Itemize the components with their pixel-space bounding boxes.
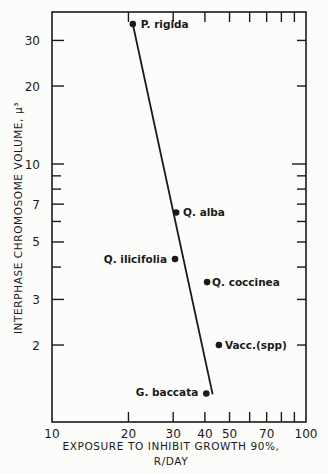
point-marker [173, 209, 180, 216]
point-marker [204, 279, 211, 286]
y-axis-title: INTERPHASE CHROMOSOME VOLUME, μ³ [12, 102, 24, 334]
point-label: Q. alba [183, 206, 225, 218]
x-axis-title: EXPOSURE TO INHIBIT GROWTH 90%, [62, 440, 279, 452]
plot-border [52, 12, 306, 422]
y-tick-label: 7 [32, 198, 40, 212]
point-marker [216, 342, 223, 349]
x-tick-label: 40 [197, 427, 212, 441]
y-tick-labels: 2357102030 [25, 34, 40, 353]
y-tick-label: 10 [25, 158, 40, 172]
data-point: Q. ilicifolia [104, 253, 179, 265]
y-tick-label: 20 [25, 80, 40, 94]
x-tick-label: 30 [166, 427, 181, 441]
y-tick-label: 2 [32, 339, 40, 353]
plot-frame [52, 12, 306, 422]
point-marker [203, 390, 210, 397]
point-marker [129, 21, 136, 28]
point-label: G. baccata [136, 386, 199, 398]
x-tick-label: 20 [121, 427, 136, 441]
x-tick-label: 50 [222, 427, 237, 441]
axis-ticks [52, 12, 306, 422]
point-marker [172, 256, 179, 263]
data-point: P. rigida [129, 18, 188, 30]
x-tick-labels: 102030405070100 [44, 427, 317, 441]
data-points: P. rigidaQ. albaQ. ilicifoliaQ. coccinea… [104, 18, 287, 398]
data-point: G. baccata [136, 386, 210, 398]
x-tick-label: 100 [295, 427, 318, 441]
x-axis-title-line2: R/DAY [154, 455, 189, 467]
y-tick-label: 30 [25, 34, 40, 48]
y-tick-label: 5 [32, 235, 40, 249]
point-label: P. rigida [141, 18, 189, 30]
y-tick-label: 3 [32, 293, 40, 307]
data-point: Q. alba [173, 206, 225, 218]
data-point: Q. coccinea [204, 276, 280, 288]
point-label: Vacc.(spp) [225, 339, 287, 351]
point-label: Q. ilicifolia [104, 253, 167, 265]
x-tick-label: 10 [44, 427, 59, 441]
point-label: Q. coccinea [212, 276, 280, 288]
chart: 102030405070100 2357102030 P. rigidaQ. a… [0, 0, 328, 474]
data-point: Vacc.(spp) [216, 339, 287, 351]
x-tick-label: 70 [259, 427, 274, 441]
